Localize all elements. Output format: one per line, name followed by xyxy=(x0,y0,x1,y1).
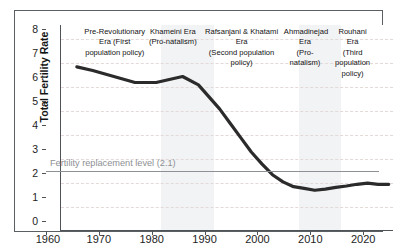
era-label: Khameini Era(Pro-natalism) xyxy=(146,27,199,48)
era-label: RouhaniEra(Thirdpopulationpolicy) xyxy=(326,27,379,79)
era-label-line: Pre-Revolutionary xyxy=(83,27,146,37)
x-tick-mark xyxy=(363,231,364,235)
era-label: Rafsanjani & Khatami Era(Second populati… xyxy=(199,27,284,69)
era-label-line: population policy) xyxy=(83,48,146,58)
era-label-line: (Pro-natalism) xyxy=(146,37,199,47)
era-label: AhmadinejadEra(Pro-natalism) xyxy=(284,27,326,69)
era-label-line: Khameini Era xyxy=(146,27,199,37)
replacement-level-label: Fertility replacement level (2.1) xyxy=(50,158,176,168)
era-label-line: population xyxy=(326,58,379,68)
y-tick-mark xyxy=(42,101,46,102)
replacement-level-line xyxy=(46,171,379,172)
era-label-line: (Second population policy) xyxy=(199,48,284,69)
x-tick-mark xyxy=(46,231,47,235)
y-tick-mark xyxy=(42,221,46,222)
era-label-line: policy) xyxy=(326,69,379,79)
era-label-line: Era xyxy=(326,37,379,47)
chart-frame: Total Fertility Rate 012345678 Fertility… xyxy=(14,10,383,232)
y-tick-mark xyxy=(42,149,46,150)
era-label-line: Era (First xyxy=(83,37,146,47)
x-tick-mark xyxy=(257,231,258,235)
y-tick-mark xyxy=(42,173,46,174)
y-tick-label: 4 xyxy=(12,119,38,131)
y-tick-label: 1 xyxy=(12,191,38,203)
x-tick-mark xyxy=(205,231,206,235)
y-tick-mark xyxy=(42,197,46,198)
y-tick-label: 8 xyxy=(12,23,38,35)
x-tick-mark xyxy=(99,231,100,235)
x-tick-mark xyxy=(152,231,153,235)
y-tick-mark xyxy=(42,125,46,126)
y-tick-label: 6 xyxy=(12,71,38,83)
era-label-line: (Third xyxy=(326,48,379,58)
x-tick-label: 1960 xyxy=(36,233,60,245)
era-label-line: Era xyxy=(284,37,326,47)
y-tick-label: 0 xyxy=(12,215,38,227)
y-tick-mark xyxy=(42,29,46,30)
y-tick-label: 2 xyxy=(12,167,38,179)
y-tick-mark xyxy=(42,77,46,78)
era-label-line: (Pro-natalism) xyxy=(284,48,326,69)
era-label: Pre-RevolutionaryEra (Firstpopulation po… xyxy=(83,27,146,58)
y-tick-label: 3 xyxy=(12,143,38,155)
era-label-line: Rouhani xyxy=(326,27,379,37)
x-tick-mark xyxy=(310,231,311,235)
y-tick-label: 7 xyxy=(12,47,38,59)
y-tick-mark xyxy=(42,53,46,54)
era-label-line: Rafsanjani & Khatami Era xyxy=(199,27,284,48)
fertility-rate-chart-figure: Total Fertility Rate 012345678 Fertility… xyxy=(0,0,405,252)
y-tick-label: 5 xyxy=(12,95,38,107)
era-label-line: Ahmadinejad xyxy=(284,27,326,37)
